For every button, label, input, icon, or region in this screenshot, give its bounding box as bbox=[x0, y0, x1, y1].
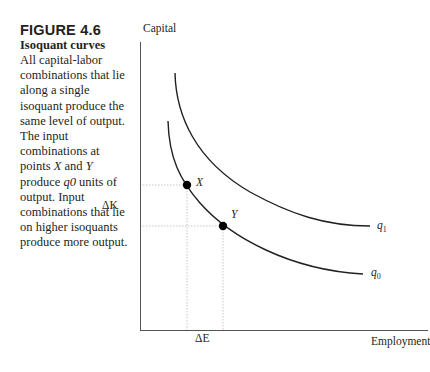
q0-label: q0 bbox=[371, 266, 381, 281]
point-x bbox=[183, 181, 191, 189]
y-axis-label: Capital bbox=[143, 22, 176, 34]
x-axis-label: Employment bbox=[371, 335, 430, 347]
point-y bbox=[219, 222, 227, 230]
q0-subscript: 0 bbox=[377, 272, 381, 281]
isoquant-q1 bbox=[175, 73, 370, 226]
delta-e-label: ΔE bbox=[195, 332, 209, 344]
delta-k-label: ΔK bbox=[102, 199, 118, 211]
q1-label: q1 bbox=[377, 219, 387, 234]
point-y-label: Y bbox=[231, 208, 237, 220]
q1-subscript: 1 bbox=[383, 225, 387, 234]
point-x-label: X bbox=[196, 176, 203, 188]
